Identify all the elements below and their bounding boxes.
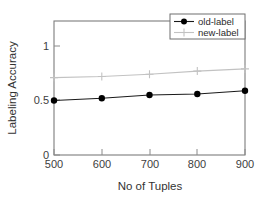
series-old-label xyxy=(51,88,248,104)
plus-marker xyxy=(241,65,249,73)
plus-marker xyxy=(193,67,201,75)
plus-marker xyxy=(50,74,58,82)
line-chart: 500 600 700 800 900 1 0.5 0 No of Tuples… xyxy=(0,0,267,208)
legend-marker-old xyxy=(181,19,187,25)
chart-legend: old-label new-label xyxy=(170,14,245,39)
data-point-marker xyxy=(99,95,105,101)
data-point-marker xyxy=(51,97,57,103)
series-new-label-markers xyxy=(50,65,249,82)
y-tick-label-0: 0 xyxy=(43,149,49,161)
x-axis-title: No of Tuples xyxy=(118,180,183,192)
plot-frame xyxy=(54,21,245,155)
y-tick-label-1: 1 xyxy=(43,40,49,52)
x-axis-ticks xyxy=(54,149,245,155)
series-old-label-markers xyxy=(51,88,248,104)
series-new-label xyxy=(50,65,249,82)
x-tick-label-600: 600 xyxy=(93,158,111,170)
legend-label-new: new-label xyxy=(198,27,239,38)
x-tick-label-700: 700 xyxy=(141,158,159,170)
y-axis-tick-labels: 1 0.5 0 xyxy=(34,40,49,161)
y-tick-label-0-5: 0.5 xyxy=(34,94,49,106)
data-point-marker xyxy=(146,92,152,98)
legend-label-old: old-label xyxy=(198,16,234,27)
data-point-marker xyxy=(194,91,200,97)
legend-item-new-label: new-label xyxy=(174,27,239,38)
x-tick-label-800: 800 xyxy=(188,158,206,170)
x-tick-label-900: 900 xyxy=(236,158,254,170)
plus-marker xyxy=(146,70,154,78)
plus-marker xyxy=(98,73,106,81)
data-point-marker xyxy=(242,88,248,94)
x-axis-tick-labels: 500 600 700 800 900 xyxy=(45,158,254,170)
chart-figure: 500 600 700 800 900 1 0.5 0 No of Tuples… xyxy=(0,0,267,208)
y-axis-title: Labeling Accuracy xyxy=(6,41,18,135)
